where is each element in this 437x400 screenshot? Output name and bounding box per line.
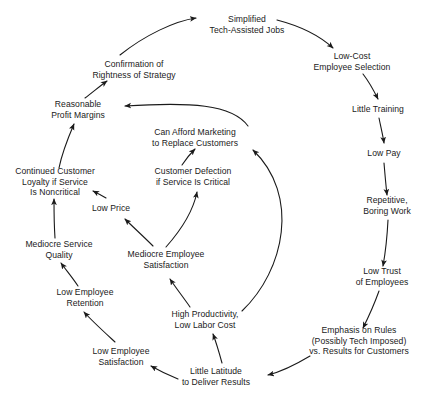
node-label-line: Low Pay: [367, 148, 400, 159]
node-simplified-jobs[interactable]: SimplifiedTech-Assisted Jobs: [210, 14, 285, 35]
node-customer-defection[interactable]: Customer Defectionif Service Is Critical: [155, 166, 232, 187]
edge-latitude-to-productivity: [213, 334, 222, 363]
node-label-line: Can Afford Marketing: [152, 127, 238, 138]
node-continued-customer-loyalty[interactable]: Continued CustomerLoyalty if ServiceIs N…: [15, 166, 95, 198]
node-label-line: Simplified: [210, 14, 285, 25]
node-label-line: Retention: [57, 298, 114, 309]
edge-mediocreempsat-to-defection: [166, 192, 197, 247]
node-label-line: (Possibly Tech Imposed): [309, 336, 409, 347]
node-low-pay[interactable]: Low Pay: [367, 148, 400, 159]
node-label-line: Tech-Assisted Jobs: [210, 25, 285, 36]
node-low-trust-employees[interactable]: Low Trustof Employees: [356, 266, 409, 287]
node-label-line: to Replace Customers: [152, 138, 238, 149]
node-label-line: High Productivity,: [171, 309, 238, 320]
node-label-line: Rightness of Strategy: [92, 70, 175, 81]
node-low-cost-selection[interactable]: Low-CostEmployee Selection: [314, 51, 391, 72]
node-label-line: Profit Margins: [51, 110, 105, 121]
node-high-productivity[interactable]: High Productivity,Low Labor Cost: [171, 309, 238, 330]
node-label-line: Little Training: [352, 104, 404, 115]
edge-retention-to-servicequality: [61, 263, 78, 286]
node-label-line: Low Employee: [93, 346, 150, 357]
edge-lowtrust-to-rules: [363, 291, 379, 328]
edge-simplified-to-lowcost: [277, 20, 333, 48]
node-label-line: of Employees: [356, 277, 409, 288]
node-label-line: Mediocre Employee: [128, 249, 205, 260]
edge-defection-to-marketing: [182, 149, 195, 165]
node-mediocre-service-quality[interactable]: Mediocre ServiceQuality: [25, 239, 92, 260]
node-label-line: Low Trust: [356, 266, 409, 277]
edge-repetitive-to-lowtrust: [383, 220, 388, 266]
edge-lowcost-to-training: [363, 74, 378, 99]
edge-training-to-lowpay: [379, 118, 384, 143]
edge-confirmation-to-simplified: [120, 18, 196, 55]
node-low-employee-satisfaction[interactable]: Low EmployeeSatisfaction: [93, 346, 150, 367]
node-confirmation-of-rightness[interactable]: Confirmation ofRightness of Strategy: [92, 59, 175, 80]
edge-rules-to-latitude: [268, 356, 310, 375]
node-label-line: Low Employee: [57, 287, 114, 298]
node-label-line: Little Latitude: [182, 366, 250, 377]
node-label-line: Mediocre Service: [25, 239, 92, 250]
edge-lowpay-to-repetitive: [384, 163, 387, 195]
node-low-price[interactable]: Low Price: [92, 203, 130, 214]
edge-lowempsat-to-retention: [84, 312, 115, 342]
node-label-line: Quality: [25, 250, 92, 261]
edge-lowprice-to-loyalty: [93, 191, 106, 198]
node-label-line: Satisfaction: [93, 357, 150, 368]
causal-loop-diagram: SimplifiedTech-Assisted JobsLow-CostEmpl…: [0, 0, 437, 400]
node-can-afford-marketing[interactable]: Can Afford Marketingto Replace Customers: [152, 127, 238, 148]
node-label-line: Low-Cost: [314, 51, 391, 62]
node-label-line: Emphasis on Rules: [309, 325, 409, 336]
node-label-line: Boring Work: [363, 206, 411, 217]
node-mediocre-employee-satisfaction[interactable]: Mediocre EmployeeSatisfaction: [128, 249, 205, 270]
node-label-line: if Service Is Critical: [155, 177, 232, 188]
node-label-line: Low Labor Cost: [171, 320, 238, 331]
edge-servicequality-to-loyalty: [54, 199, 55, 238]
node-label-line: Loyalty if Service: [15, 177, 95, 188]
node-repetitive-boring-work[interactable]: Repetitive,Boring Work: [363, 195, 411, 216]
edge-loyalty-to-margins: [59, 124, 74, 168]
node-label-line: vs. Results for Customers: [309, 346, 409, 357]
node-little-training[interactable]: Little Training: [352, 104, 404, 115]
node-reasonable-profit-margins[interactable]: ReasonableProfit Margins: [51, 99, 105, 120]
node-label-line: Low Price: [92, 203, 130, 214]
edge-margins-to-confirmation: [85, 81, 107, 98]
node-label-line: Repetitive,: [363, 195, 411, 206]
node-low-employee-retention[interactable]: Low EmployeeRetention: [57, 287, 114, 308]
edge-productivity-to-mediocreempsat: [170, 279, 190, 307]
node-label-line: Customer Defection: [155, 166, 232, 177]
node-label-line: Satisfaction: [128, 260, 205, 271]
node-label-line: to Deliver Results: [182, 377, 250, 388]
node-label-line: Is Noncritical: [15, 187, 95, 198]
edge-mediocreempsat-to-lowprice: [125, 219, 153, 246]
edge-latitude-to-lowempsat: [151, 366, 178, 379]
node-emphasis-on-rules[interactable]: Emphasis on Rules(Possibly Tech Imposed)…: [309, 325, 409, 357]
node-label-line: Reasonable: [51, 99, 105, 110]
node-label-line: Employee Selection: [314, 62, 391, 73]
node-label-line: Confirmation of: [92, 59, 175, 70]
edge-productivity-to-marketing: [242, 150, 282, 311]
node-little-latitude[interactable]: Little Latitudeto Deliver Results: [182, 366, 250, 387]
node-label-line: Continued Customer: [15, 166, 95, 177]
edge-marketing-to-margins: [125, 104, 248, 126]
